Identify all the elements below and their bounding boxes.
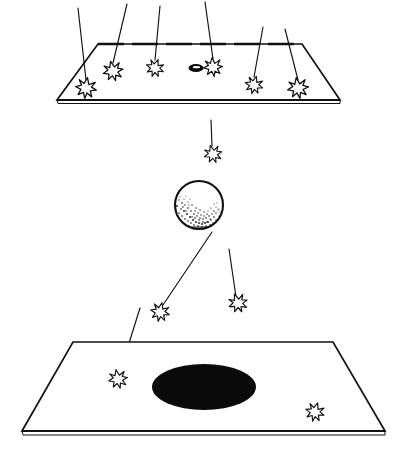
burst-icon-hit-air-right xyxy=(226,291,251,316)
track-mid xyxy=(211,120,212,146)
track-out-right xyxy=(229,249,236,297)
burst-icon-hit-mid xyxy=(202,143,225,166)
air-hit-markers xyxy=(149,291,251,324)
track-out-left xyxy=(163,232,212,305)
burst-icon-hit-air-left xyxy=(149,301,172,324)
sphere-outline xyxy=(175,181,223,229)
lower-plate xyxy=(22,342,385,435)
upper-plate-aperture-marker xyxy=(189,64,204,72)
middle-track-group xyxy=(202,120,225,165)
scattering-diagram-figure xyxy=(0,0,407,459)
aperture-ellipse-highlight xyxy=(193,66,200,68)
lower-plate-black-spot xyxy=(152,364,256,410)
target-sphere xyxy=(173,181,223,236)
diagram-canvas xyxy=(0,0,407,459)
